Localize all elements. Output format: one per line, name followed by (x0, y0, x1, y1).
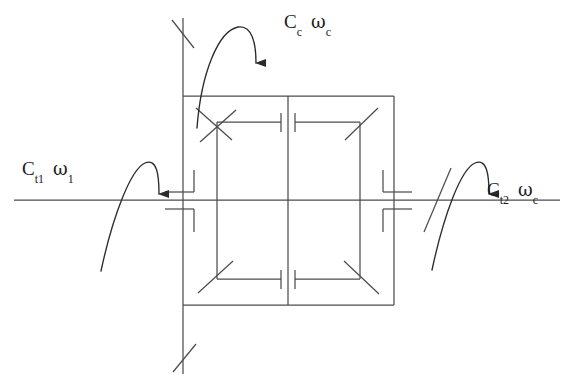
input-speed-symbol: ω (53, 158, 68, 179)
carrier-torque-arrow (197, 27, 256, 128)
carrier-torque-subscript: c (297, 25, 302, 39)
input-torque-symbol: C (22, 158, 35, 179)
output-torque-symbol: C (487, 179, 500, 200)
input-torque-subscript: t1 (35, 172, 44, 186)
bearing-hatch-top-left-b (200, 110, 236, 142)
bearing-hatch-bottom-right (344, 261, 379, 294)
input-speed-subscript: 1 (68, 172, 74, 186)
shaft-break-mark-bottom (173, 344, 196, 372)
output-speed-subscript: c (533, 193, 538, 207)
input-torque-arrow (101, 162, 159, 271)
bearing-hatch-top-left-a (196, 108, 232, 140)
output-torque-label: Ct2ωc (487, 180, 538, 203)
output-torque-arrow (432, 162, 489, 270)
output-torque-subscript: t2 (500, 193, 509, 207)
input-torque-label: Ct1ω1 (22, 159, 74, 182)
bearing-hatch-bottom-left (198, 261, 233, 293)
carrier-speed-subscript: c (326, 25, 331, 39)
carrier-torque-label: Ccωc (284, 12, 331, 35)
carrier-torque-symbol: C (284, 11, 297, 32)
carrier-speed-symbol: ω (311, 11, 326, 32)
gear-train-diagram: Ccωc Ct1ω1 Ct2ωc (0, 0, 573, 391)
bearing-hatch-top-right (345, 108, 378, 140)
output-speed-symbol: ω (518, 179, 533, 200)
